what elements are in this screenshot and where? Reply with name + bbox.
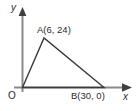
- x-axis-label: x: [123, 92, 128, 102]
- triangle-oab: [23, 38, 105, 88]
- y-axis-label: y: [11, 3, 16, 13]
- point-a-label: A(6, 24): [37, 25, 71, 35]
- figure-canvas: [0, 0, 138, 111]
- y-axis-arrowhead-icon: [19, 7, 27, 16]
- origin-label: O: [8, 91, 16, 101]
- point-b-label: B(30, 0): [71, 91, 105, 101]
- coordinate-figure: y x O A(6, 24) B(30, 0): [0, 0, 138, 111]
